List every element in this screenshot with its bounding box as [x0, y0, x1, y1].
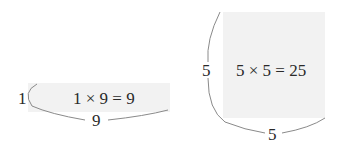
square-side-bracket-bottom: [208, 78, 265, 133]
rectangle-bottom-label: 9: [92, 112, 101, 129]
square-side-bracket-top: [208, 12, 220, 62]
square-bottom-label: 5: [268, 126, 277, 143]
square-bottom-bracket: [282, 118, 325, 133]
square-equation: 5 × 5 = 25: [236, 62, 306, 79]
square-side-label: 5: [202, 62, 211, 79]
rectangle-equation: 1 × 9 = 9: [73, 90, 135, 107]
rectangle-side-label: 1: [18, 90, 27, 107]
rectangle-bottom-bracket: [108, 110, 168, 120]
